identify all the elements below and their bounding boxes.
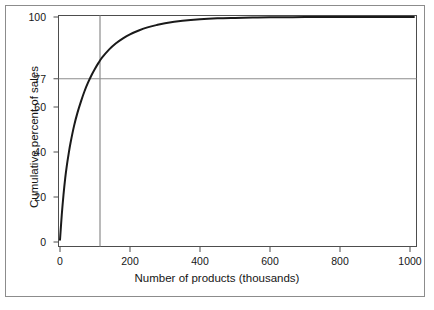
x-tick-label-400: 400 [177, 255, 223, 267]
x-tick-label-1000: 1000 [387, 255, 433, 267]
figure-container: 0 20 40 60 77 100 0 200 400 600 800 1000… [0, 0, 434, 310]
y-tick-label-100: 100 [6, 11, 46, 23]
x-tick-label-200: 200 [107, 255, 153, 267]
x-axis-tick-marks [60, 247, 410, 253]
y-tick-label-0: 0 [6, 236, 46, 248]
y-tick-label-20: 20 [6, 191, 46, 203]
x-tick-label-0: 0 [37, 255, 83, 267]
y-axis-tick-marks [54, 17, 59, 242]
plot-area-frame [59, 16, 417, 247]
y-tick-label-77: 77 [6, 73, 46, 85]
cumulative-sales-curve [60, 17, 414, 240]
x-axis-title: Number of products (thousands) [0, 272, 434, 284]
y-tick-label-60: 60 [6, 101, 46, 113]
x-tick-label-600: 600 [247, 255, 293, 267]
y-tick-label-40: 40 [6, 146, 46, 158]
y-axis-title: Cumulative percent of sales [28, 17, 40, 257]
x-tick-label-800: 800 [317, 255, 363, 267]
